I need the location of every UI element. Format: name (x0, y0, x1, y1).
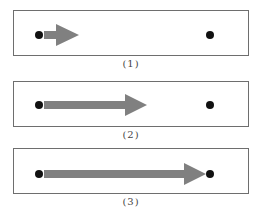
panel-1-drawing (14, 11, 250, 57)
end-dot-1 (206, 31, 214, 39)
panel-3-drawing (14, 149, 250, 195)
start-dot-1 (35, 31, 43, 39)
arrow-3-icon (44, 163, 206, 185)
arrow-2-icon (44, 94, 147, 116)
panel-1 (13, 10, 249, 56)
caption-2: (2) (0, 129, 262, 140)
caption-1: (1) (0, 58, 262, 69)
end-dot-2 (206, 101, 214, 109)
arrow-1-icon (44, 24, 79, 46)
end-dot-3 (206, 170, 214, 178)
start-dot-3 (35, 170, 43, 178)
panel-2-drawing (14, 82, 250, 128)
panel-2 (13, 81, 249, 127)
start-dot-2 (35, 101, 43, 109)
panel-3 (13, 148, 249, 194)
caption-3: (3) (0, 196, 262, 207)
